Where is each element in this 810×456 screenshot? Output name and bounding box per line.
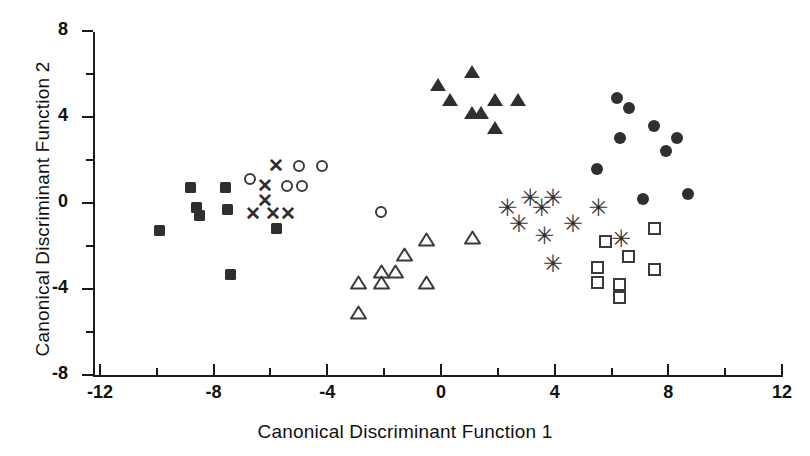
data-point-open-triangle <box>373 275 390 290</box>
data-point-open-triangle <box>350 305 367 320</box>
data-point-open-triangle <box>418 232 435 247</box>
x-tick-minor <box>611 368 613 375</box>
x-tick <box>440 364 442 375</box>
data-point-filled-circle <box>660 145 672 157</box>
data-point-open-circle <box>296 180 308 192</box>
data-point-filled-circle <box>682 188 694 200</box>
data-point-filled-triangle <box>510 93 526 106</box>
data-point-asterisk: ✳ <box>543 253 563 275</box>
data-point-asterisk: ✳ <box>531 197 551 219</box>
data-point-filled-circle <box>637 193 649 205</box>
data-point-filled-circle <box>671 132 683 144</box>
data-point-open-square <box>648 263 661 276</box>
x-tick-minor <box>497 368 499 375</box>
y-tick <box>82 202 93 204</box>
data-point-asterisk: ✳ <box>509 213 529 235</box>
x-tick-label: -4 <box>300 382 354 403</box>
data-point-open-circle <box>316 160 328 172</box>
y-axis-line <box>93 32 95 377</box>
data-point-cross: ✕ <box>280 205 296 222</box>
y-tick <box>82 374 93 376</box>
y-tick-minor <box>86 159 93 161</box>
data-point-cross: ✕ <box>245 205 261 222</box>
y-tick-minor <box>86 331 93 333</box>
x-axis-line <box>93 375 783 377</box>
data-point-filled-triangle <box>473 106 489 119</box>
data-point-asterisk: ✳ <box>563 213 583 235</box>
data-point-open-triangle <box>418 275 435 290</box>
data-point-filled-triangle <box>487 93 503 106</box>
x-tick-label: 8 <box>641 382 695 403</box>
y-tick <box>82 30 93 32</box>
data-point-filled-circle <box>614 132 626 144</box>
data-point-filled-square <box>271 223 282 234</box>
x-tick-minor <box>269 368 271 375</box>
data-point-filled-square <box>194 210 205 221</box>
x-tick-label: 12 <box>755 382 809 403</box>
data-point-filled-circle <box>648 120 660 132</box>
data-point-open-square <box>613 278 626 291</box>
x-tick <box>781 364 783 375</box>
data-point-filled-square <box>154 225 165 236</box>
data-point-filled-square <box>220 182 231 193</box>
x-tick <box>99 364 101 375</box>
data-point-filled-circle <box>611 92 623 104</box>
x-tick <box>667 364 669 375</box>
data-point-filled-circle <box>591 163 603 175</box>
data-point-open-triangle <box>396 247 413 262</box>
data-point-open-square <box>591 276 604 289</box>
data-point-filled-triangle <box>464 65 480 78</box>
data-point-open-triangle <box>350 275 367 290</box>
data-point-open-circle <box>244 173 256 185</box>
data-point-filled-triangle <box>442 93 458 106</box>
data-point-open-triangle <box>464 230 481 245</box>
x-tick-label: 0 <box>414 382 468 403</box>
y-tick <box>82 116 93 118</box>
data-point-open-circle <box>375 206 387 218</box>
y-axis-label: Canonical Discriminant Function 2 <box>32 24 54 394</box>
x-tick <box>554 364 556 375</box>
data-point-filled-square <box>185 182 196 193</box>
data-point-filled-triangle <box>430 78 446 91</box>
x-tick-label: -8 <box>187 382 241 403</box>
data-point-filled-square <box>225 269 236 280</box>
data-point-cross: ✕ <box>268 157 284 174</box>
x-tick-label: -12 <box>73 382 127 403</box>
x-tick <box>213 364 215 375</box>
data-point-asterisk: ✳ <box>534 225 554 247</box>
data-point-open-square <box>622 250 635 263</box>
x-axis-label: Canonical Discriminant Function 1 <box>0 421 810 443</box>
scatter-plot-figure: 840-4-8-12-8-404812 ✕✕✕✕✕✕✳✳✳✳✳✳✳✳✳✳ Can… <box>0 0 810 456</box>
data-point-open-square <box>591 261 604 274</box>
x-tick-minor <box>724 368 726 375</box>
plot-area: 840-4-8-12-8-404812 ✕✕✕✕✕✕✳✳✳✳✳✳✳✳✳✳ <box>0 0 810 456</box>
data-point-open-circle <box>281 180 293 192</box>
data-point-filled-circle <box>623 102 635 114</box>
x-tick-minor <box>383 368 385 375</box>
data-point-open-square <box>648 222 661 235</box>
data-point-open-square <box>613 291 626 304</box>
y-tick-minor <box>86 73 93 75</box>
data-point-filled-square <box>222 204 233 215</box>
data-point-open-circle <box>293 160 305 172</box>
data-point-filled-triangle <box>487 121 503 134</box>
x-tick <box>326 364 328 375</box>
y-tick-minor <box>86 245 93 247</box>
x-tick-label: 4 <box>528 382 582 403</box>
x-tick-minor <box>156 368 158 375</box>
data-point-asterisk: ✳ <box>611 228 631 250</box>
data-point-asterisk: ✳ <box>588 197 608 219</box>
data-point-open-square <box>599 235 612 248</box>
y-tick <box>82 288 93 290</box>
